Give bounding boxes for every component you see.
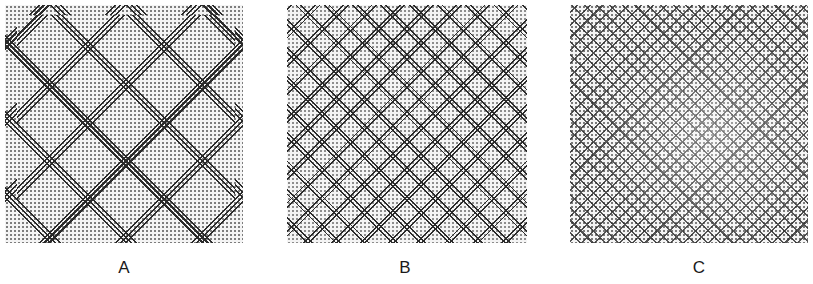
panel-label-b: B xyxy=(385,258,425,278)
tonal-variation xyxy=(570,5,808,243)
moire-pattern-figure: A B C xyxy=(0,0,813,284)
panel-label-c: C xyxy=(679,258,719,278)
pattern-panel-a xyxy=(5,5,243,243)
diagonal-lattice-lines xyxy=(287,5,527,243)
pattern-panel-b xyxy=(287,5,527,243)
pattern-panel-c xyxy=(570,5,808,243)
panel-label-a: A xyxy=(104,258,144,278)
diagonal-lattice-lines xyxy=(5,5,243,243)
